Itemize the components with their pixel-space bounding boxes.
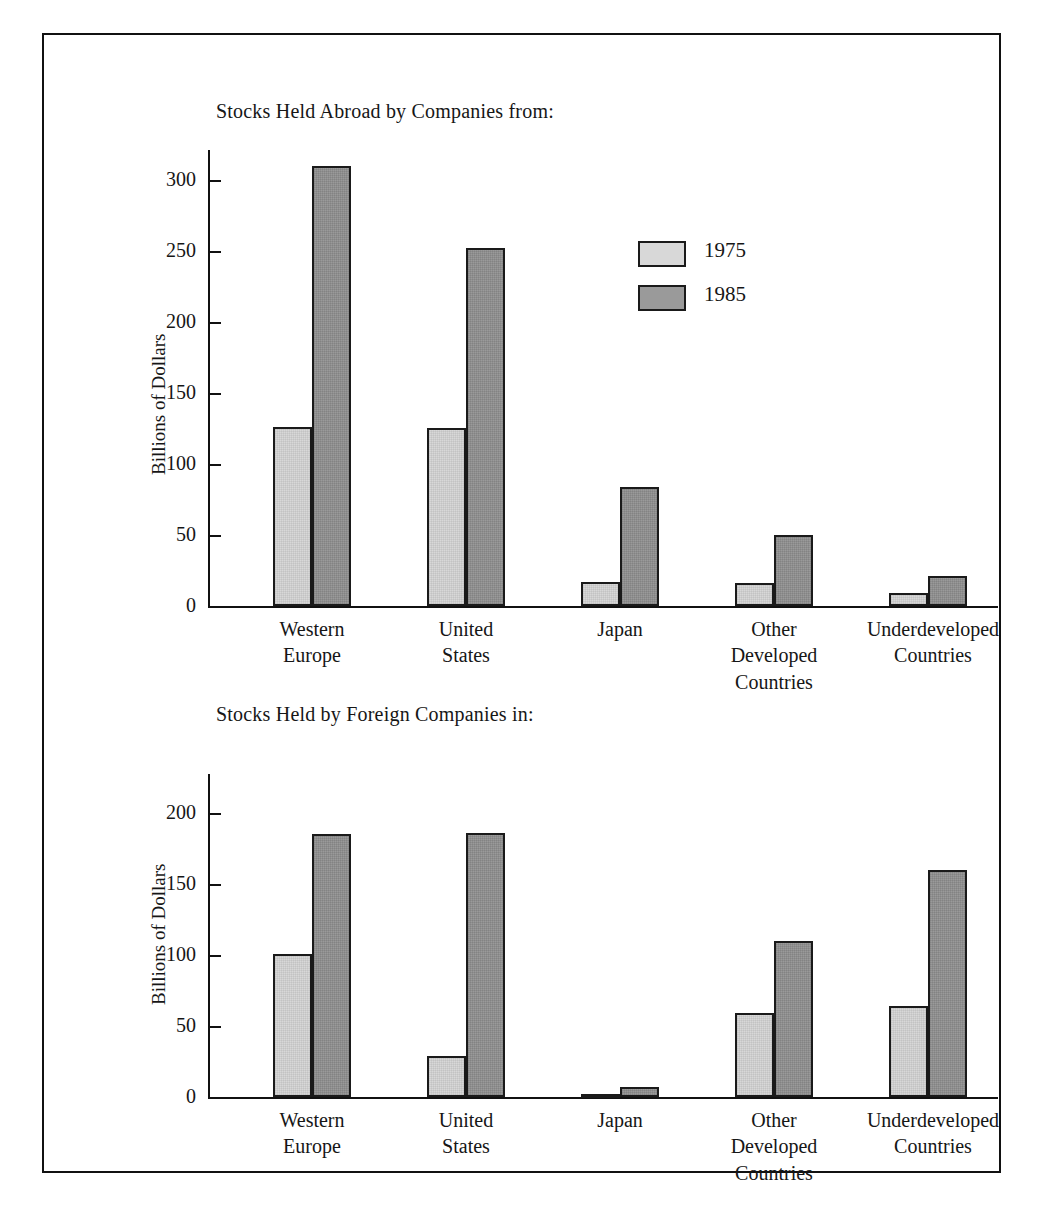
- chart-bottom-category-underdeveloped: Underdeveloped Countries: [838, 1107, 1028, 1160]
- cat-line: Other: [689, 1107, 859, 1133]
- bar-bottom-western-europe-1975: [273, 954, 312, 1097]
- chart-top-category-western-europe: Western Europe: [227, 616, 397, 669]
- chart-bottom-ticklabel-200: 200: [134, 801, 196, 824]
- chart-top-tick-200: [208, 322, 221, 324]
- cat-line: Japan: [535, 1107, 705, 1133]
- cat-line: Western: [227, 616, 397, 642]
- chart-top-ticklabel-200: 200: [134, 310, 196, 333]
- cat-line: Japan: [535, 616, 705, 642]
- cat-line: Countries: [689, 1160, 859, 1186]
- legend-label-1985: 1985: [704, 282, 746, 307]
- chart-bottom-tick-150: [208, 884, 221, 886]
- chart-bottom-ticklabel-50: 50: [134, 1014, 196, 1037]
- bar-top-underdeveloped-1975: [889, 593, 928, 606]
- chart-bottom: Stocks Held by Foreign Companies in: Bil…: [44, 675, 999, 1170]
- chart-bottom-tick-100: [208, 955, 221, 957]
- bar-bottom-japan-1975: [581, 1094, 620, 1098]
- chart-bottom-category-other-developed: Other Developed Countries: [689, 1107, 859, 1186]
- chart-top-ticklabel-250: 250: [134, 239, 196, 262]
- chart-bottom-tick-200: [208, 813, 221, 815]
- bar-bottom-united-states-1975: [427, 1056, 466, 1097]
- chart-top-ticklabel-100: 100: [134, 452, 196, 475]
- bar-bottom-underdeveloped-1975: [889, 1006, 928, 1097]
- chart-bottom-ticklabel-150: 150: [134, 872, 196, 895]
- bar-top-underdeveloped-1985: [928, 576, 967, 606]
- chart-bottom-category-japan: Japan: [535, 1107, 705, 1133]
- bar-bottom-western-europe-1985: [312, 834, 351, 1097]
- bar-top-japan-1975: [581, 582, 620, 606]
- chart-top-tick-100: [208, 464, 221, 466]
- chart-bottom-ticklabel-0: 0: [134, 1085, 196, 1108]
- chart-top-category-underdeveloped: Underdeveloped Countries: [838, 616, 1028, 669]
- chart-top-tick-150: [208, 393, 221, 395]
- legend-swatch-1975: [638, 241, 686, 267]
- cat-line: Countries: [838, 642, 1028, 668]
- chart-bottom-title: Stocks Held by Foreign Companies in:: [216, 703, 534, 726]
- cat-line: States: [381, 642, 551, 668]
- bar-top-other-developed-1985: [774, 535, 813, 606]
- cat-line: Developed: [689, 1133, 859, 1159]
- chart-top-tick-250: [208, 251, 221, 253]
- bar-top-united-states-1985: [466, 248, 505, 606]
- chart-top-category-united-states: United States: [381, 616, 551, 669]
- cat-line: United: [381, 616, 551, 642]
- figure-frame: Stocks Held Abroad by Companies from: Bi…: [42, 33, 1001, 1173]
- chart-top-tick-300: [208, 180, 221, 182]
- cat-line: Other: [689, 616, 859, 642]
- cat-line: States: [381, 1133, 551, 1159]
- chart-top-title: Stocks Held Abroad by Companies from:: [216, 100, 554, 123]
- legend-label-1975: 1975: [704, 238, 746, 263]
- bar-bottom-other-developed-1985: [774, 941, 813, 1097]
- figure-page: Stocks Held Abroad by Companies from: Bi…: [0, 0, 1048, 1227]
- chart-top-ticklabel-300: 300: [134, 168, 196, 191]
- bar-top-japan-1985: [620, 487, 659, 606]
- bar-top-united-states-1975: [427, 428, 466, 606]
- chart-bottom-category-united-states: United States: [381, 1107, 551, 1160]
- legend-swatch-1985: [638, 285, 686, 311]
- chart-top-y-axis: [208, 150, 210, 608]
- chart-top: Stocks Held Abroad by Companies from: Bi…: [44, 35, 999, 635]
- chart-bottom-tick-50: [208, 1026, 221, 1028]
- bar-top-western-europe-1985: [312, 166, 351, 606]
- cat-line: Developed: [689, 642, 859, 668]
- bar-top-other-developed-1975: [735, 583, 774, 606]
- chart-top-ticklabel-50: 50: [134, 523, 196, 546]
- bar-bottom-japan-1985: [620, 1087, 659, 1097]
- cat-line: Underdeveloped: [838, 616, 1028, 642]
- chart-bottom-category-western-europe: Western Europe: [227, 1107, 397, 1160]
- chart-top-ticklabel-0: 0: [134, 594, 196, 617]
- chart-top-tick-50: [208, 535, 221, 537]
- chart-top-category-japan: Japan: [535, 616, 705, 642]
- bar-bottom-united-states-1985: [466, 833, 505, 1097]
- cat-line: Europe: [227, 642, 397, 668]
- chart-top-ticklabel-150: 150: [134, 381, 196, 404]
- cat-line: Underdeveloped: [838, 1107, 1028, 1133]
- bar-bottom-other-developed-1975: [735, 1013, 774, 1097]
- chart-top-x-axis: [208, 606, 998, 608]
- bar-bottom-underdeveloped-1985: [928, 870, 967, 1097]
- chart-bottom-y-axis: [208, 774, 210, 1099]
- cat-line: Countries: [838, 1133, 1028, 1159]
- chart-bottom-ticklabel-100: 100: [134, 943, 196, 966]
- cat-line: Western: [227, 1107, 397, 1133]
- bar-top-western-europe-1975: [273, 427, 312, 606]
- cat-line: United: [381, 1107, 551, 1133]
- cat-line: Europe: [227, 1133, 397, 1159]
